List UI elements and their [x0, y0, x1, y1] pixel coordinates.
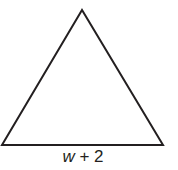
- base-label: w + 2: [0, 147, 166, 167]
- base-label-rest: + 2: [75, 147, 104, 166]
- base-label-variable: w: [62, 147, 74, 166]
- triangle-figure: [0, 0, 178, 170]
- triangle-shape: [2, 10, 163, 145]
